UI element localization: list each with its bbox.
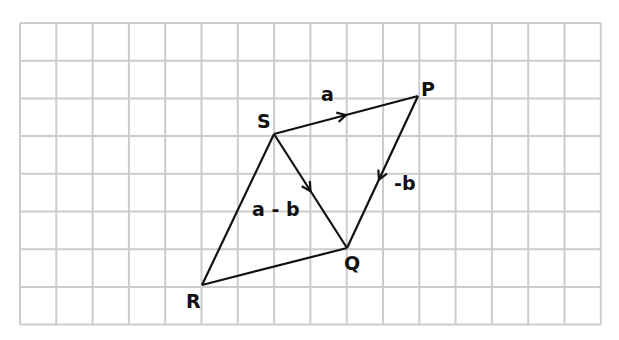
point-label-q: Q xyxy=(344,254,360,273)
point-label-r: R xyxy=(186,292,201,311)
point-label-p: P xyxy=(421,80,435,99)
grid xyxy=(20,23,601,325)
vector-label-a: a xyxy=(321,85,334,104)
vector-diagram xyxy=(0,0,619,340)
vector-label-neg-b: -b xyxy=(394,174,416,193)
vector-label-a-minus-b: a - b xyxy=(252,200,300,219)
point-label-s: S xyxy=(257,112,271,131)
